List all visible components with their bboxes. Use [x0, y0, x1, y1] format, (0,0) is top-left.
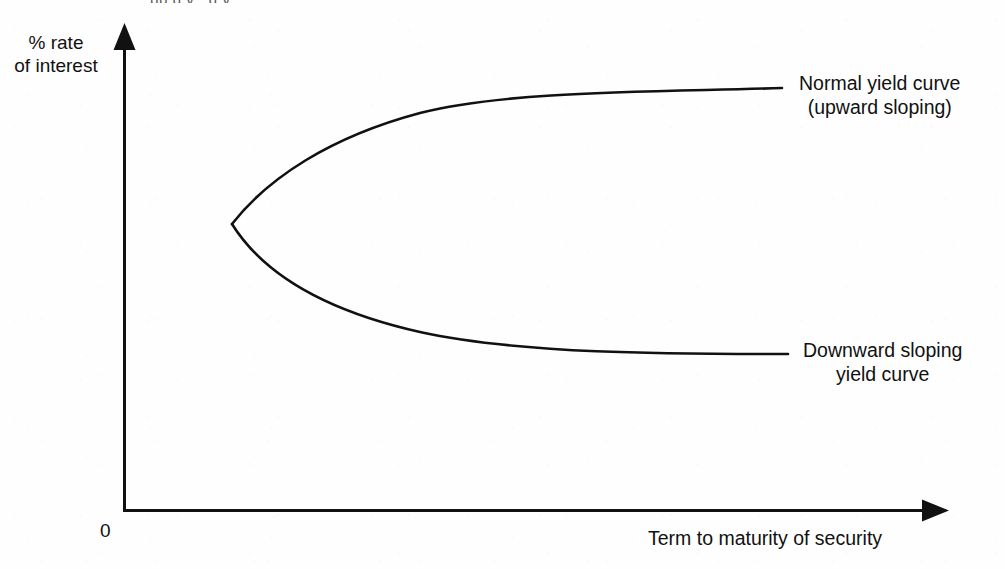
horizontal-axis-arrowhead — [922, 500, 949, 522]
y-axis-title: % rate of interest — [0, 31, 112, 77]
origin-label: 0 — [100, 519, 111, 542]
yield-curve-figure: pp g y , g y % rate of interest 0 Term t… — [0, 0, 1005, 569]
vertical-axis — [114, 23, 136, 510]
normal-yield-curve-label: Normal yield curve (upward sloping) — [799, 72, 960, 120]
downward-yield-curve-label-line2: yield curve — [803, 363, 962, 387]
y-axis-title-line1: % rate — [29, 32, 84, 53]
normal-yield-curve-path — [232, 88, 782, 224]
horizontal-axis — [123, 500, 949, 522]
vertical-axis-arrowhead — [114, 23, 136, 50]
downward-yield-curve-label: Downward sloping yield curve — [803, 339, 962, 387]
downward-yield-curve-label-line1: Downward sloping — [803, 339, 962, 361]
downward-yield-curve-path — [232, 224, 788, 354]
normal-yield-curve-label-line1: Normal yield curve — [799, 72, 960, 94]
x-axis-title: Term to maturity of security — [648, 527, 882, 551]
y-axis-title-line2: of interest — [14, 55, 97, 76]
normal-yield-curve-label-line2: (upward sloping) — [799, 96, 960, 120]
